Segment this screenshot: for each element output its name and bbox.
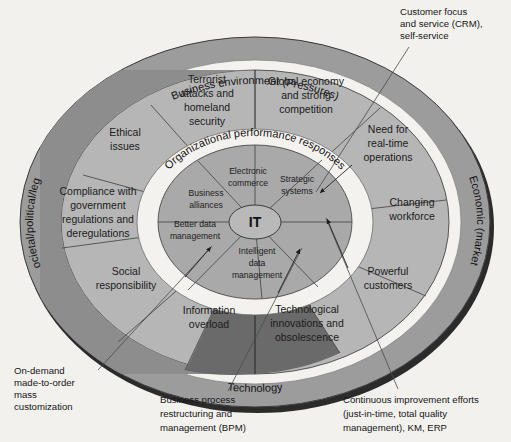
svg-text:customers: customers	[364, 279, 412, 291]
ring-label-bottom-text: Technology	[227, 381, 283, 394]
svg-text:Compliance with: Compliance with	[59, 185, 136, 197]
svg-text:regulations and: regulations and	[62, 213, 134, 225]
svg-text:Need for: Need for	[368, 123, 409, 135]
svg-text:Powerful: Powerful	[368, 265, 409, 277]
svg-text:Strategic: Strategic	[280, 174, 315, 184]
svg-text:overload: overload	[189, 318, 229, 330]
svg-text:Better data: Better data	[174, 219, 216, 229]
svg-text:Information: Information	[183, 304, 236, 316]
svg-text:Social: Social	[112, 265, 141, 277]
segment-technological-innovations[interactable]: Technological innovations and obsolescen…	[270, 303, 344, 343]
svg-text:and strong: and strong	[281, 89, 331, 101]
svg-text:management (BPM): management (BPM)	[160, 422, 246, 433]
svg-text:Customer focus: Customer focus	[400, 6, 467, 17]
concentric-ring-diagram: IT Business environment (Pressures) Orga…	[0, 0, 511, 442]
it-label: IT	[249, 214, 262, 230]
svg-text:management), KM, ERP: management), KM, ERP	[343, 422, 447, 433]
callout-bpm[interactable]: Business process restructuring and manag…	[160, 394, 246, 433]
svg-text:self-service: self-service	[400, 30, 449, 41]
svg-text:innovations and: innovations and	[270, 317, 344, 329]
svg-text:(just-in-time, total quality: (just-in-time, total quality	[343, 408, 447, 419]
svg-text:Terrorist: Terrorist	[188, 73, 226, 85]
svg-text:competition: competition	[279, 103, 333, 115]
svg-text:Continuous improvement efforts: Continuous improvement efforts	[343, 394, 479, 405]
ring-label-bottom: Technology	[227, 381, 283, 394]
svg-text:restructuring and: restructuring and	[160, 408, 232, 419]
svg-text:Business: Business	[189, 188, 224, 198]
svg-text:Technological: Technological	[275, 303, 339, 315]
svg-text:commerce: commerce	[228, 178, 268, 188]
svg-text:Business process: Business process	[160, 394, 235, 405]
svg-text:On-demand: On-demand	[14, 365, 65, 376]
svg-text:real-time: real-time	[368, 137, 409, 149]
svg-text:made-to-order: made-to-order	[14, 377, 76, 388]
svg-text:Electronic: Electronic	[229, 166, 267, 176]
svg-text:and service (CRM),: and service (CRM),	[400, 18, 483, 29]
svg-text:homeland: homeland	[184, 101, 230, 113]
callout-on-demand[interactable]: On-demand made-to-order mass customizati…	[14, 365, 76, 412]
svg-text:alliances: alliances	[189, 200, 222, 210]
svg-text:government: government	[70, 199, 126, 211]
svg-text:customization: customization	[14, 401, 73, 412]
svg-text:management: management	[170, 231, 221, 241]
svg-text:security: security	[189, 115, 226, 127]
diagram-canvas: IT Business environment (Pressures) Orga…	[0, 0, 511, 442]
svg-text:workforce: workforce	[388, 210, 435, 222]
svg-text:management: management	[232, 270, 283, 280]
svg-text:obsolescence: obsolescence	[275, 331, 339, 343]
svg-text:mass: mass	[14, 389, 37, 400]
svg-text:Changing: Changing	[390, 196, 435, 208]
svg-text:Global economy: Global economy	[268, 75, 345, 87]
svg-text:issues: issues	[110, 140, 140, 152]
svg-text:Ethical: Ethical	[109, 126, 141, 138]
callout-continuous-improvement[interactable]: Continuous improvement efforts (just-in-…	[343, 394, 479, 433]
callout-crm[interactable]: Customer focus and service (CRM), self-s…	[400, 6, 483, 41]
svg-text:responsibility: responsibility	[96, 279, 157, 291]
svg-text:Intelligent: Intelligent	[239, 246, 276, 256]
svg-text:systems: systems	[281, 186, 313, 196]
svg-text:operations: operations	[363, 151, 412, 163]
svg-text:attacks and: attacks and	[180, 87, 234, 99]
segment-real-time-operations[interactable]: Need for real-time operations	[363, 123, 412, 163]
svg-text:deregulations: deregulations	[66, 227, 129, 239]
svg-text:data: data	[249, 258, 266, 268]
